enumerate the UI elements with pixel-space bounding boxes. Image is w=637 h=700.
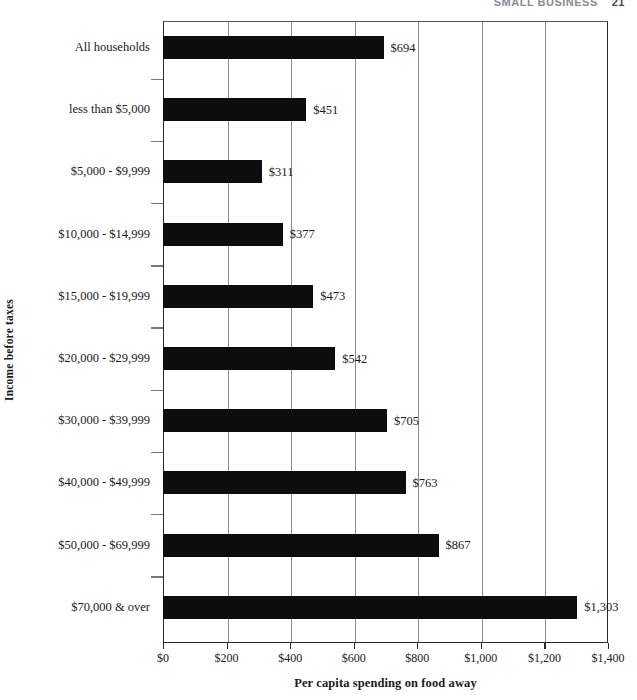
x-axis-tick-label: $400 [278,651,302,666]
bar-value-label: $377 [283,227,315,242]
bar-value-label: $451 [306,102,338,117]
y-axis-tick [151,452,163,453]
bar-row: $311 [163,160,608,183]
category-label: $40,000 - $49,999 [58,471,150,494]
category-axis-labels: All householdsless than $5,000$5,000 - $… [16,21,157,643]
x-axis-ticks [163,643,608,650]
x-axis-title-text: Per capita spending on food away [294,676,477,690]
bar [163,471,406,494]
category-label: $15,000 - $19,999 [58,285,150,308]
bar [163,285,313,308]
category-label: $70,000 & over [71,596,150,619]
bar-value-label: $763 [406,475,438,490]
x-axis-tick-labels: $0$200$400$600$800$1,000$1,200$1,400 [163,651,608,669]
bar-value-label: $542 [335,351,367,366]
x-axis-tick-label: $1,200 [528,651,561,666]
running-header: SMALL BUSINESS21 [494,0,625,6]
x-axis-tick-label: $1,400 [592,651,625,666]
bar-row: $867 [163,534,608,557]
bar-row: $542 [163,347,608,370]
bars-layer: $694$451$311$377$473$542$705$763$867$1,3… [163,21,608,643]
category-label: $20,000 - $29,999 [58,347,150,370]
y-axis-title-text: Income before taxes [3,299,15,401]
bar-row: $377 [163,223,608,246]
category-label: $10,000 - $14,999 [58,223,150,246]
x-axis-tick [608,643,609,649]
x-axis-tick [481,643,482,649]
x-axis-tick-label: $0 [157,651,169,666]
category-label: All households [75,36,150,59]
y-axis-tick [151,203,163,204]
y-axis-tick [151,327,163,328]
y-axis-tick [151,265,163,266]
y-axis-tick [151,79,163,80]
bar [163,534,439,557]
y-axis-tick [151,390,163,391]
bar [163,347,335,370]
bar-value-label: $473 [313,289,345,304]
x-axis-tick-label: $1,000 [464,651,497,666]
bar-value-label: $1,303 [577,600,618,615]
chart-page: SMALL BUSINESS21 Income before taxes $69… [0,0,637,700]
bar-row: $694 [163,36,608,59]
x-axis-tick [163,643,164,649]
bar [163,409,387,432]
category-label: $30,000 - $39,999 [58,409,150,432]
bar [163,98,306,121]
y-axis-tick [151,514,163,515]
bar-row: $451 [163,98,608,121]
bar-row: $705 [163,409,608,432]
bar [163,596,577,619]
x-axis-tick-label: $800 [405,651,429,666]
x-axis-tick [290,643,291,649]
x-axis-tick [354,643,355,649]
x-axis-title: Per capita spending on food away [163,676,608,691]
bar [163,223,283,246]
y-axis-ticks [151,21,163,643]
category-label: less than $5,000 [69,98,150,121]
x-axis-tick [417,643,418,649]
bar-row: $1,303 [163,596,608,619]
bar-row: $473 [163,285,608,308]
bar-row: $763 [163,471,608,494]
bar-value-label: $311 [262,164,294,179]
x-axis-tick [227,643,228,649]
running-header-text: SMALL BUSINESS [494,0,598,6]
bar-value-label: $867 [439,538,471,553]
bar [163,36,384,59]
x-axis-tick-label: $600 [342,651,366,666]
category-label: $50,000 - $69,999 [58,534,150,557]
bar [163,160,262,183]
bar-value-label: $705 [387,413,419,428]
page-number: 21 [612,0,625,6]
category-label: $5,000 - $9,999 [71,160,150,183]
x-axis-tick [544,643,545,649]
bar-value-label: $694 [384,40,416,55]
x-axis-tick-label: $200 [215,651,239,666]
y-axis-tick [151,576,163,577]
y-axis-tick [151,141,163,142]
